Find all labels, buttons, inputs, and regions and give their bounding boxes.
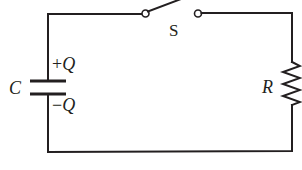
switch-label: S — [169, 21, 178, 40]
resistor-label: R — [261, 77, 273, 97]
rc-circuit-diagram: S R C +Q −Q — [0, 0, 302, 170]
minus-q-label: −Q — [52, 95, 75, 115]
plus-sign: + — [52, 54, 62, 74]
minus-q-symbol: Q — [62, 95, 75, 115]
plus-q-label: +Q — [52, 54, 75, 74]
switch-right-terminal — [195, 10, 202, 17]
switch[interactable] — [142, 0, 202, 17]
capacitor-label: C — [9, 78, 22, 98]
minus-sign: − — [52, 95, 62, 115]
plus-q-symbol: Q — [62, 54, 75, 74]
top-right-wire — [202, 13, 293, 62]
switch-lever[interactable] — [148, 0, 181, 12]
resistor-zigzag — [283, 62, 300, 105]
bottom-wire — [48, 95, 292, 152]
